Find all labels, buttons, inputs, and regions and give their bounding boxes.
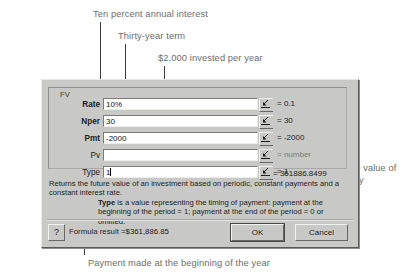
argument-help-name: Type xyxy=(98,198,115,207)
annotation-nper: Thirty-year term xyxy=(118,31,185,41)
argument-label-rate: Rate xyxy=(43,98,100,111)
argument-result-pmt: = -2000 xyxy=(277,132,304,144)
collapse-dialog-icon-type[interactable] xyxy=(259,166,273,180)
pmt-input[interactable]: -2000 xyxy=(103,132,258,144)
argument-result-nper: = 30 xyxy=(277,115,293,127)
formula-result: Formula result =$361,886.85 xyxy=(69,227,169,236)
argument-label-pv: Pv xyxy=(43,149,100,162)
pv-input[interactable] xyxy=(103,149,258,161)
function-arguments-dialog: FV Rate 10% = 0.1 Nper 30 xyxy=(41,79,359,248)
argument-label-pmt: Pmt xyxy=(43,132,100,145)
collapse-dialog-icon-pmt[interactable] xyxy=(259,132,273,146)
function-description: Returns the future value of an investmen… xyxy=(49,179,351,198)
argument-result-rate: = 0.1 xyxy=(277,98,295,110)
collapse-dialog-icon-nper[interactable] xyxy=(259,115,273,129)
collapse-dialog-icon-pv[interactable] xyxy=(259,149,273,163)
ok-button[interactable]: OK xyxy=(231,224,284,241)
argument-row-pv: Pv = number xyxy=(43,149,357,162)
cancel-button[interactable]: Cancel xyxy=(295,224,348,241)
argument-help: Type is a value representing the timing … xyxy=(98,198,348,226)
function-result-value: = 361886.8499 xyxy=(273,169,327,178)
annotation-type: Payment made at the beginning of the yea… xyxy=(88,258,270,268)
annotation-pmt: $2,000 invested per year xyxy=(158,53,263,63)
annotation-rate: Ten percent annual interest xyxy=(93,9,208,19)
argument-label-nper: Nper xyxy=(43,115,100,128)
argument-result-pv: = number xyxy=(277,149,311,161)
formula-result-value: $361,886.85 xyxy=(126,227,169,236)
collapse-dialog-icon-rate[interactable] xyxy=(259,98,273,112)
dialog-body: FV Rate 10% = 0.1 Nper 30 xyxy=(43,81,357,246)
rate-input[interactable]: 10% xyxy=(103,98,258,110)
nper-input[interactable]: 30 xyxy=(103,115,258,127)
argument-help-text: is a value representing the timing of pa… xyxy=(98,198,323,226)
text-caret xyxy=(110,168,111,176)
formula-result-label: Formula result = xyxy=(69,227,126,236)
argument-label-type: Type xyxy=(43,166,100,179)
argument-row-pmt: Pmt -2000 = -2000 xyxy=(43,132,357,145)
divider xyxy=(47,219,353,221)
type-input[interactable]: 1 xyxy=(103,166,258,178)
argument-row-rate: Rate 10% = 0.1 xyxy=(43,98,357,111)
argument-row-nper: Nper 30 = 30 xyxy=(43,115,357,128)
help-icon[interactable]: ? xyxy=(48,224,65,241)
